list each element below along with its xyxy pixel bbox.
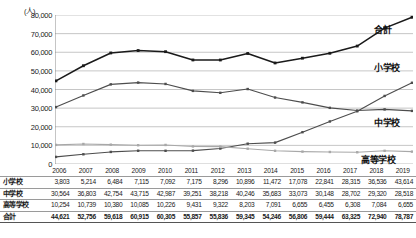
table-cell: 22,841 <box>310 177 336 189</box>
table-cell: 7,091 <box>257 200 283 212</box>
marker-2-0 <box>55 144 57 146</box>
y-tick-80000: 80,000 <box>6 11 52 20</box>
plot-area <box>55 15 413 164</box>
marker-2-7 <box>246 148 248 150</box>
data-table-region: 小学校3,8035,2146,4847,1157,0927,1758,29610… <box>0 176 416 224</box>
table-cell: 39,251 <box>178 188 204 200</box>
marker-0-5 <box>192 149 194 151</box>
gridlines <box>55 15 413 164</box>
y-tick-40000: 40,000 <box>6 85 52 94</box>
table-cell: 30,148 <box>310 188 336 200</box>
marker-2-13 <box>411 150 413 152</box>
marker-0-8 <box>274 141 276 143</box>
table-cell: 11,472 <box>257 177 283 189</box>
table-cell: 30,564 <box>46 188 72 200</box>
marker-0-10 <box>329 120 331 122</box>
table-cell: 6,308 <box>337 200 363 212</box>
x-tick-2006: 2006 <box>52 167 66 174</box>
table-row: 小学校3,8035,2146,4847,1157,0927,1758,29610… <box>0 177 416 189</box>
table-cell: 28,518 <box>389 188 416 200</box>
table-cell: 5,214 <box>72 177 98 189</box>
x-tick-2015: 2015 <box>290 167 304 174</box>
marker-1-10 <box>329 107 331 109</box>
marker-1-12 <box>383 108 385 110</box>
y-tick-50000: 50,000 <box>6 66 52 75</box>
marker-0-9 <box>301 131 303 133</box>
marker-0-12 <box>383 95 385 97</box>
y-axis-tick-labels: 010,00020,00030,00040,00050,00060,00070,… <box>2 0 52 176</box>
marker-0-13 <box>411 82 413 84</box>
table-row-label: 小学校 <box>0 177 46 189</box>
marker-2-5 <box>192 145 194 147</box>
table-cell: 6,655 <box>284 200 310 212</box>
table-cell: 60,915 <box>125 211 151 223</box>
marker-1-6 <box>219 92 221 94</box>
y-tick-20000: 20,000 <box>6 122 52 131</box>
table-row: 高等学校10,25410,73910,38010,08510,2269,4319… <box>0 200 416 212</box>
data-table: 小学校3,8035,2146,4847,1157,0927,1758,29610… <box>0 176 416 223</box>
table-cell: 3,803 <box>46 177 72 189</box>
marker-1-2 <box>110 83 112 85</box>
table-cell: 36,536 <box>363 177 389 189</box>
table-cell: 78,787 <box>389 211 416 223</box>
table-cell: 10,896 <box>231 177 257 189</box>
table-cell: 6,455 <box>310 200 336 212</box>
x-tick-2012: 2012 <box>211 167 225 174</box>
marker-3-4 <box>164 50 167 53</box>
table-cell: 38,218 <box>205 188 231 200</box>
marker-1-8 <box>274 96 276 98</box>
marker-2-8 <box>274 150 276 152</box>
marker-1-1 <box>82 94 84 96</box>
x-tick-2010: 2010 <box>158 167 172 174</box>
marker-3-13 <box>411 16 413 19</box>
table-cell: 7,092 <box>152 177 178 189</box>
table-cell: 54,246 <box>257 211 283 223</box>
table-cell: 44,621 <box>46 211 72 223</box>
plot-svg <box>55 15 413 164</box>
x-tick-2007: 2007 <box>79 167 93 174</box>
marker-0-2 <box>110 151 112 153</box>
table-cell: 10,226 <box>152 200 178 212</box>
table-row: 中学校30,56436,80342,75443,71542,98739,2513… <box>0 188 416 200</box>
marker-0-3 <box>137 150 139 152</box>
marker-3-6 <box>219 59 222 62</box>
marker-1-0 <box>55 106 57 108</box>
marker-0-7 <box>246 143 248 145</box>
x-tick-2016: 2016 <box>317 167 331 174</box>
table-cell: 9,322 <box>205 200 231 212</box>
table-cell: 7,115 <box>125 177 151 189</box>
series-lines <box>55 16 413 158</box>
series-line-1 <box>56 83 412 111</box>
table-cell: 6,655 <box>389 200 416 212</box>
series-label-high-school: 高等学校 <box>361 153 396 166</box>
marker-1-9 <box>301 101 303 103</box>
x-tick-2017: 2017 <box>343 167 357 174</box>
marker-0-0 <box>55 156 57 158</box>
marker-0-4 <box>164 150 166 152</box>
x-tick-2011: 2011 <box>185 167 198 174</box>
table-row-label: 中学校 <box>0 188 46 200</box>
table-cell: 52,756 <box>72 211 98 223</box>
marker-1-13 <box>411 110 413 112</box>
table-cell: 29,320 <box>363 188 389 200</box>
table-cell: 55,836 <box>205 211 231 223</box>
table-cell: 43,715 <box>125 188 151 200</box>
marker-2-1 <box>82 143 84 145</box>
marker-1-4 <box>164 83 166 85</box>
table-cell: 43,614 <box>389 177 416 189</box>
marker-1-5 <box>192 90 194 92</box>
table-cell: 28,315 <box>337 177 363 189</box>
series-label-total: 合計 <box>374 23 391 36</box>
table-cell: 35,683 <box>257 188 283 200</box>
table-row-label: 高等学校 <box>0 200 46 212</box>
table-cell: 40,246 <box>231 188 257 200</box>
chart-page: (人) 010,00020,00030,00040,00050,00060,00… <box>0 0 416 238</box>
table-cell: 7,084 <box>363 200 389 212</box>
series-line-0 <box>56 83 412 157</box>
x-tick-2014: 2014 <box>264 167 278 174</box>
table-cell: 10,380 <box>99 200 125 212</box>
table-cell: 42,987 <box>152 188 178 200</box>
table-row-label: 合計 <box>0 211 46 223</box>
table-cell: 59,618 <box>99 211 125 223</box>
series-line-3 <box>56 17 412 81</box>
